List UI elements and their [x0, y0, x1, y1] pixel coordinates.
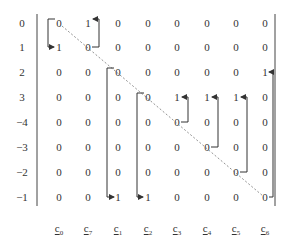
- arrow-c6: [269, 72, 273, 197]
- arrow-c2: [137, 93, 144, 197]
- arrow-c4: [211, 97, 218, 147]
- arrow-c7: [92, 19, 99, 47]
- arrow-c1: [107, 68, 114, 197]
- arrow-c3: [181, 97, 188, 122]
- arrow-c5: [240, 97, 247, 172]
- diagonal-line: [62, 26, 263, 196]
- arrow-c0: [48, 19, 55, 47]
- arrows-layer: [0, 0, 295, 242]
